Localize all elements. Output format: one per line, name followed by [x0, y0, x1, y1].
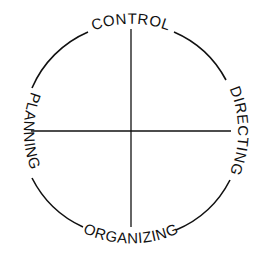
diagram-svg: CONTROL DIRECTING ORGANIZING PLANNING	[0, 0, 260, 260]
management-cycle-diagram: CONTROL DIRECTING ORGANIZING PLANNING	[0, 0, 260, 260]
